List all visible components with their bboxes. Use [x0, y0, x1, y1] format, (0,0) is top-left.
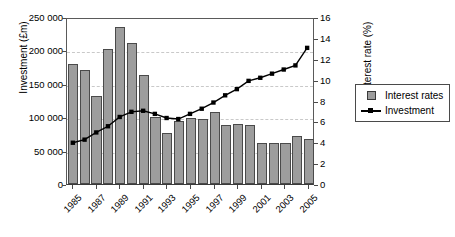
x-axis-tick-mark [284, 185, 285, 189]
legend-item-investment: Investment [361, 104, 443, 117]
y-axis-right-tick-label: 2 [320, 159, 346, 169]
y-axis-right-tick-mark [314, 143, 318, 144]
legend-label-investment: Investment [381, 105, 434, 116]
investment-data-point [176, 117, 180, 121]
y-axis-left-tick-label: 150 000 [0, 80, 63, 90]
investment-data-point [305, 46, 309, 50]
y-axis-right-tick-label: 14 [320, 34, 346, 44]
x-axis-tick-mark [308, 185, 309, 189]
investment-line [73, 48, 307, 143]
investment-data-point [293, 63, 297, 67]
investment-data-point [94, 130, 98, 134]
investment-data-point [282, 67, 286, 71]
x-axis-tick-mark [237, 185, 238, 189]
y-axis-right-tick-label: 0 [320, 180, 346, 190]
x-axis-tick-mark [119, 185, 120, 189]
investment-data-point [71, 141, 75, 145]
y-axis-right-tick-label: 6 [320, 117, 346, 127]
investment-data-point [141, 109, 145, 113]
y-axis-right-tick-mark [314, 185, 318, 186]
y-axis-left-tick-label: 0 [0, 180, 63, 190]
investment-data-point [270, 71, 274, 75]
investment-data-point [235, 87, 239, 91]
x-axis-tick-mark [143, 185, 144, 189]
investment-data-point [164, 116, 168, 120]
investment-data-point [258, 76, 262, 80]
plot-area [66, 18, 314, 185]
chart-container: Investment (£m) Interest rate (%) 050 00… [0, 0, 455, 237]
investment-data-point [106, 124, 110, 128]
y-axis-right-tick-label: 8 [320, 97, 346, 107]
y-axis-right-tick-mark [314, 18, 318, 19]
x-axis-tick-mark [190, 185, 191, 189]
x-axis-tick-mark [166, 185, 167, 189]
investment-data-point [153, 112, 157, 116]
legend-item-interest-rates: Interest rates [361, 89, 443, 102]
investment-data-point [211, 100, 215, 104]
line-series-investment [67, 19, 313, 184]
y-axis-right-tick-label: 12 [320, 55, 346, 65]
y-axis-right-tick-mark [314, 39, 318, 40]
y-axis-right-tick-mark [314, 122, 318, 123]
chart-legend: Interest rates Investment [355, 84, 450, 122]
investment-data-point [118, 115, 122, 119]
y-axis-left-tick-label: 200 000 [0, 46, 63, 56]
investment-data-point [188, 112, 192, 116]
bar-swatch-icon [361, 91, 381, 100]
legend-label-interest-rates: Interest rates [381, 90, 443, 101]
y-axis-right-tick-label: 10 [320, 76, 346, 86]
x-axis-tick-mark [214, 185, 215, 189]
investment-data-point [129, 110, 133, 114]
investment-data-point [223, 93, 227, 97]
line-swatch-icon [361, 106, 381, 115]
y-axis-left-tick-mark [62, 185, 66, 186]
investment-data-point [200, 107, 204, 111]
investment-data-point [82, 137, 86, 141]
y-axis-left-tick-label: 50 000 [0, 147, 63, 157]
x-axis-tick-mark [72, 185, 73, 189]
x-axis-tick-mark [261, 185, 262, 189]
x-axis-tick-mark [96, 185, 97, 189]
y-axis-right-tick-label: 16 [320, 13, 346, 23]
y-axis-right-tick-mark [314, 81, 318, 82]
y-axis-right-tick-mark [314, 60, 318, 61]
investment-data-point [246, 79, 250, 83]
y-axis-right-tick-mark [314, 164, 318, 165]
y-axis-right-tick-label: 4 [320, 138, 346, 148]
y-axis-left-tick-label: 250 000 [0, 13, 63, 23]
y-axis-right-tick-mark [314, 102, 318, 103]
y-axis-left-tick-label: 100 000 [0, 113, 63, 123]
